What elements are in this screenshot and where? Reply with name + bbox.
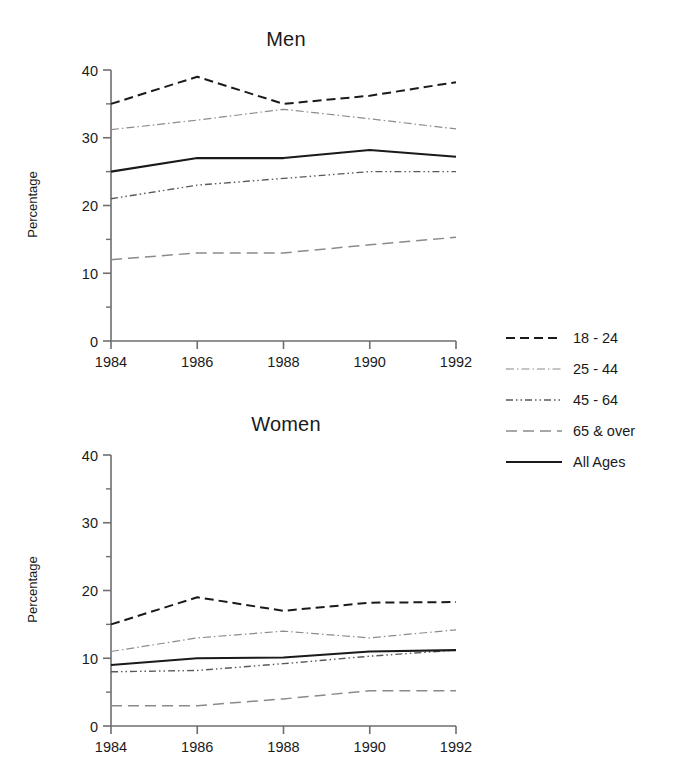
series-line: [111, 150, 456, 172]
series-line: [111, 691, 456, 706]
legend-item[interactable]: All Ages: [505, 446, 675, 477]
x-tick-label: 1992: [440, 354, 472, 370]
legend-line-swatch: [505, 362, 563, 376]
legend-line-swatch: [505, 424, 563, 438]
chart-panel-women: Women Percentage 01020304019841986198819…: [0, 385, 480, 770]
x-tick-label: 1992: [440, 739, 472, 755]
y-tick-label: 10: [82, 266, 98, 282]
x-tick-label: 1990: [354, 354, 386, 370]
plot-area-men: 01020304019841986198819901992: [0, 0, 480, 385]
y-tick-label: 40: [82, 63, 98, 79]
y-tick-label: 30: [82, 515, 98, 531]
x-tick-label: 1988: [267, 354, 299, 370]
legend-item[interactable]: 25 - 44: [505, 353, 675, 384]
legend-item[interactable]: 65 & over: [505, 415, 675, 446]
y-tick-label: 0: [90, 719, 98, 735]
x-tick-label: 1990: [354, 739, 386, 755]
x-tick-label: 1986: [181, 739, 213, 755]
legend-line-swatch: [505, 455, 563, 469]
series-line: [111, 597, 456, 624]
legend-item[interactable]: 18 - 24: [505, 322, 675, 353]
legend-item[interactable]: 45 - 64: [505, 384, 675, 415]
series-line: [111, 630, 456, 652]
legend-line-swatch: [505, 393, 563, 407]
series-line: [111, 172, 456, 199]
x-tick-label: 1988: [267, 739, 299, 755]
x-tick-label: 1986: [181, 354, 213, 370]
series-line: [111, 237, 456, 259]
legend-item-label: 25 - 44: [573, 361, 618, 377]
y-tick-label: 20: [82, 198, 98, 214]
chart-legend: 18 - 2425 - 4445 - 6465 & overAll Ages: [505, 322, 675, 477]
legend-item-label: 65 & over: [573, 423, 635, 439]
series-line: [111, 109, 456, 129]
legend-line-swatch: [505, 331, 563, 345]
x-tick-label: 1984: [95, 739, 127, 755]
chart-panel-men: Men Percentage 0102030401984198619881990…: [0, 0, 480, 385]
y-tick-label: 30: [82, 130, 98, 146]
legend-item-label: 18 - 24: [573, 330, 618, 346]
y-tick-label: 10: [82, 651, 98, 667]
legend-item-label: 45 - 64: [573, 392, 618, 408]
series-line: [111, 77, 456, 104]
series-line: [111, 650, 456, 665]
plot-area-women: 01020304019841986198819901992: [0, 385, 480, 770]
y-tick-label: 40: [82, 448, 98, 464]
y-tick-label: 20: [82, 583, 98, 599]
y-tick-label: 0: [90, 334, 98, 350]
figure-root: Men Percentage 0102030401984198619881990…: [0, 0, 675, 770]
x-tick-label: 1984: [95, 354, 127, 370]
legend-item-label: All Ages: [573, 454, 625, 470]
